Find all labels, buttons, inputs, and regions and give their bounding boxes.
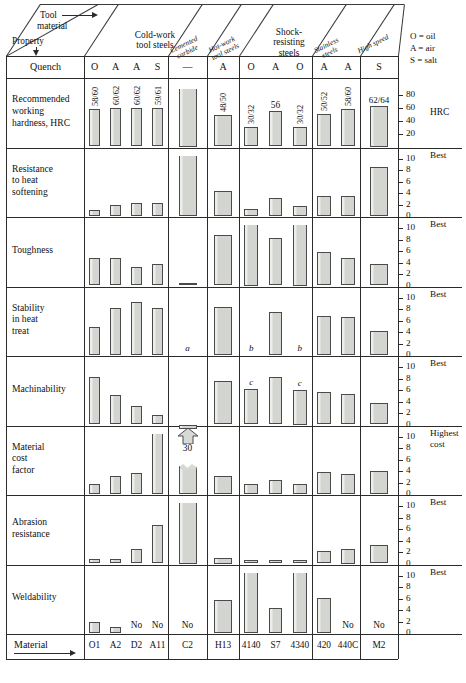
bar-value-hardness-4340: 30/32 xyxy=(296,105,305,124)
material-name-A11: A11 xyxy=(150,640,166,650)
bar-material-cost-factor-M2 xyxy=(370,471,388,494)
row-label-line: working xyxy=(12,105,70,117)
axis-tick-heat-softening-10 xyxy=(398,159,403,160)
material-name-A2: A2 xyxy=(110,640,121,650)
bar-machinability-H13 xyxy=(214,381,232,425)
tool-material-arrow-icon xyxy=(62,15,96,16)
axis-tick-stability-heat-treat-10 xyxy=(398,298,403,299)
bar-material-cost-factor-440C xyxy=(341,474,354,494)
bar-weldability-S7 xyxy=(269,608,282,633)
bar-abrasion-resistance-A2 xyxy=(110,559,122,563)
bar-material-cost-factor-A11 xyxy=(152,434,164,494)
bar-value-hardness-O1: 58/60 xyxy=(91,87,100,106)
axis-tick-machinability-6 xyxy=(398,390,403,391)
row-label-toughness: Toughness xyxy=(12,244,53,256)
legend-line-2: S = salt xyxy=(410,54,437,66)
axis-tick-weldability-4 xyxy=(398,610,403,611)
bar-hardness-A11 xyxy=(152,108,164,146)
axis-tick-machinability-8 xyxy=(398,379,403,380)
bar-abrasion-resistance-C2 xyxy=(179,503,197,563)
axis-tick-label-heat-softening-10: 10 xyxy=(406,154,415,163)
axis-tick-label-weldability-0: 0 xyxy=(406,628,411,637)
quench-value-420: A xyxy=(320,61,327,72)
header-property-label: Property xyxy=(12,36,76,46)
axis-tick-label-machinability-6: 6 xyxy=(406,385,411,394)
bar-stability-heat-treat-440C xyxy=(341,317,354,355)
axis-tick-machinability-2 xyxy=(398,413,403,414)
axis-unit-hardness: HRC xyxy=(430,107,449,117)
bar-heat-softening-D2 xyxy=(131,203,143,216)
axis-tick-abrasion-resistance-10 xyxy=(398,506,403,507)
axis-tick-label-abrasion-resistance-0: 0 xyxy=(406,559,411,568)
bar-value-hardness-4140: 30/32 xyxy=(247,105,256,124)
axis-tick-label-material-cost-factor-10: 10 xyxy=(406,432,415,441)
axis-tick-label-weldability-4: 4 xyxy=(406,605,411,614)
bar-value-weldability-M2: No xyxy=(373,620,384,630)
axis-best-material-cost-factor: Highest xyxy=(430,428,459,438)
axis-tick-label-abrasion-resistance-2: 2 xyxy=(406,547,411,556)
axis-tick-label-stability-heat-treat-2: 2 xyxy=(406,339,411,348)
axis-tick-label-abrasion-resistance-4: 4 xyxy=(406,536,411,545)
bar-machinability-A11 xyxy=(152,415,164,424)
bar-abrasion-resistance-A11 xyxy=(152,525,164,564)
axis-tick-label-material-cost-factor-4: 4 xyxy=(406,466,411,475)
axis-tick-material-cost-factor-10 xyxy=(398,437,403,438)
axis-tick-label-stability-heat-treat-6: 6 xyxy=(406,316,411,325)
axis-tick-label-stability-heat-treat-4: 4 xyxy=(406,327,411,336)
axis-tick-weldability-6 xyxy=(398,599,403,600)
axis-tick-label-weldability-10: 10 xyxy=(406,571,415,580)
bar-material-cost-factor-S7 xyxy=(269,480,282,494)
bar-heat-softening-420 xyxy=(317,196,330,216)
axis-tick-label-hardness-80: 80 xyxy=(406,91,415,100)
bar-abrasion-resistance-O1 xyxy=(89,559,101,564)
axis-tick-label-weldability-8: 8 xyxy=(406,582,411,591)
quench-value-O1: O xyxy=(91,61,98,72)
bar-weldability-O1 xyxy=(89,622,101,633)
bar-heat-softening-A11 xyxy=(152,203,164,216)
axis-tick-hardness-80 xyxy=(398,95,403,96)
bar-machinability-M2 xyxy=(370,403,388,425)
bar-abrasion-resistance-4140 xyxy=(244,560,257,563)
quench-value-A11: S xyxy=(155,61,161,72)
bar-heat-softening-A2 xyxy=(110,205,122,217)
axis-tick-material-cost-factor-2 xyxy=(398,483,403,484)
bar-material-cost-factor-O1 xyxy=(89,484,101,494)
axis-tick-machinability-4 xyxy=(398,402,403,403)
bar-machinability-D2 xyxy=(131,406,143,424)
axis-best-weldability: Best xyxy=(430,567,446,577)
axis-tick-material-cost-factor-6 xyxy=(398,460,403,461)
material-name-420: 420 xyxy=(317,640,331,650)
row-label-material-cost-factor: Materialcostfactor xyxy=(12,441,45,476)
bar-heat-softening-440C xyxy=(341,196,354,216)
footnote-stability-heat-treat-b-6: b xyxy=(249,343,254,353)
axis-tick-hardness-40 xyxy=(398,121,403,122)
bar-machinability-O1 xyxy=(89,377,101,424)
bar-toughness-O1 xyxy=(89,258,101,285)
bar-hardness-D2 xyxy=(131,108,143,147)
row-label-line: Material xyxy=(12,441,45,453)
axis-tick-toughness-4 xyxy=(398,263,403,264)
axis-tick-label-abrasion-resistance-8: 8 xyxy=(406,513,411,522)
header-group-hot-work: Hot-worktool steels xyxy=(207,35,241,63)
axis-tick-label-toughness-6: 6 xyxy=(406,246,411,255)
bar-top-stub xyxy=(179,425,197,429)
quench-row-label: Quench xyxy=(30,61,61,72)
material-row-label: Material xyxy=(14,639,48,650)
axis-tick-label-weldability-2: 2 xyxy=(406,617,411,626)
axis-tick-stability-heat-treat-8 xyxy=(398,309,403,310)
bar-value-hardness-H13: 48/50 xyxy=(219,93,228,112)
bar-abrasion-resistance-D2 xyxy=(131,549,143,564)
axis-tick-label-abrasion-resistance-6: 6 xyxy=(406,524,411,533)
bar-hardness-4140 xyxy=(244,127,257,147)
bar-material-cost-factor-D2 xyxy=(131,473,143,494)
axis-tick-label-machinability-0: 0 xyxy=(406,420,411,429)
bar-material-cost-factor-C2 xyxy=(179,468,197,495)
bar-abrasion-resistance-4340 xyxy=(293,560,306,563)
bar-toughness-M2 xyxy=(370,264,388,285)
axis-tick-label-material-cost-factor-6: 6 xyxy=(406,455,411,464)
axis-best-abrasion-resistance: Best xyxy=(430,497,446,507)
row-label-line: Weldability xyxy=(12,591,57,603)
bar-machinability-A2 xyxy=(110,395,122,425)
axis-tick-weldability-2 xyxy=(398,622,403,623)
footnote-machinability-c-8: c xyxy=(298,378,302,388)
